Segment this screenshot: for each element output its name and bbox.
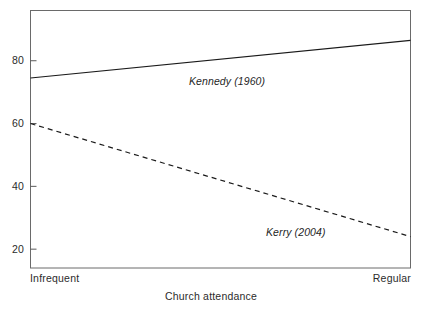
x-axis-title: Church attendance — [0, 290, 422, 302]
y-tick-label-20: 20 — [0, 243, 24, 255]
chart-figure: 80 60 40 20 Infrequent Regular Church at… — [0, 0, 422, 310]
y-tick-label-60: 60 — [0, 117, 24, 129]
plot-area — [0, 0, 422, 310]
y-tick-label-80: 80 — [0, 54, 24, 66]
x-tick-label-regular: Regular — [371, 272, 411, 284]
series-label-kennedy: Kennedy (1960) — [189, 75, 265, 87]
y-tick-label-40: 40 — [0, 180, 24, 192]
series-label-kerry: Kerry (2004) — [266, 226, 326, 238]
plot-frame — [31, 11, 411, 269]
x-tick-label-infrequent: Infrequent — [30, 272, 79, 284]
